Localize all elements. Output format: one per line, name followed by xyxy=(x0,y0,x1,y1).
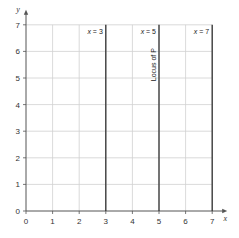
grid-lines xyxy=(26,25,212,211)
y-tick-label: 3 xyxy=(16,127,21,136)
y-tick-label: 5 xyxy=(16,74,21,83)
x-tick-label: 7 xyxy=(210,217,215,226)
axes xyxy=(24,10,227,213)
x-tick-label: 0 xyxy=(24,217,29,226)
x-tick-label: 4 xyxy=(130,217,135,226)
y-tick-label: 0 xyxy=(16,207,21,216)
line-label-x-5: x = 5 xyxy=(140,28,156,35)
annotations: x = 3x = 5x = 7Locus of P xyxy=(86,28,209,81)
y-tick-label: 6 xyxy=(16,47,21,56)
y-tick-label: 4 xyxy=(16,101,21,110)
y-axis-label: y xyxy=(15,5,20,14)
y-tick-label: 2 xyxy=(16,154,21,163)
x-tick-label: 1 xyxy=(50,217,55,226)
x-tick-label: 5 xyxy=(157,217,162,226)
x-tick-label: 6 xyxy=(183,217,188,226)
line-label-x-7: x = 7 xyxy=(193,28,209,35)
x-tick-label: 2 xyxy=(77,217,82,226)
x-axis-label: x xyxy=(222,214,227,223)
x-tick-label: 3 xyxy=(104,217,109,226)
x-axis-arrow-icon xyxy=(222,209,227,213)
locus-label: Locus of P xyxy=(150,48,157,81)
vertical-lines xyxy=(106,25,212,211)
y-axis-arrow-icon xyxy=(24,10,28,15)
tick-labels: 0123456701234567xy xyxy=(15,5,227,226)
y-tick-label: 1 xyxy=(16,180,21,189)
y-tick-label: 7 xyxy=(16,21,21,30)
locus-chart: 0123456701234567xy x = 3x = 5x = 7Locus … xyxy=(0,0,239,238)
line-label-x-3: x = 3 xyxy=(86,28,102,35)
